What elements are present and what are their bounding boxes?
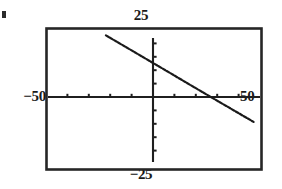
plotted-line-series — [106, 35, 254, 122]
graph-figure: 25 −25 −50 50 — [0, 0, 282, 189]
plot-area — [0, 0, 282, 189]
line-path — [106, 35, 254, 122]
